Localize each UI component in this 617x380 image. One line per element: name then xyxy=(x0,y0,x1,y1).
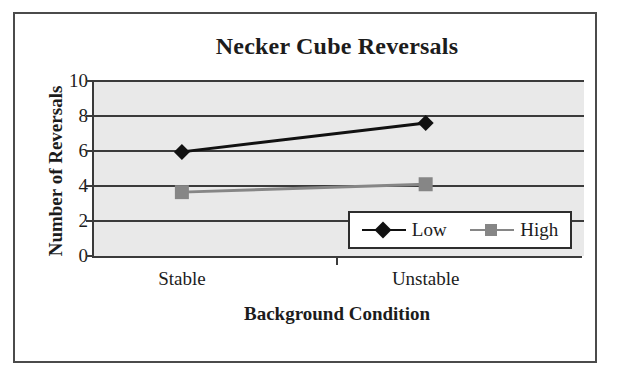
gridline xyxy=(94,115,584,117)
y-axis-tick-label: 4 xyxy=(54,176,88,195)
gridline xyxy=(94,150,584,152)
y-axis-tick-mark xyxy=(86,150,94,152)
y-axis-tick-mark xyxy=(86,185,94,187)
legend-entry-high: High xyxy=(470,219,558,241)
square-marker-icon xyxy=(470,223,514,237)
x-axis-center-tick xyxy=(336,256,338,265)
y-axis-tick-labels: 0246810 xyxy=(48,81,88,256)
y-axis-tick-label: 8 xyxy=(54,106,88,125)
diamond-marker-icon xyxy=(362,223,406,237)
gridline xyxy=(94,80,584,82)
y-axis-tick-mark xyxy=(86,255,94,257)
y-axis-tick-mark xyxy=(86,220,94,222)
y-axis-tick-mark xyxy=(86,80,94,82)
y-axis-tick-label: 0 xyxy=(54,246,88,265)
y-axis-tick-label: 6 xyxy=(54,141,88,160)
gridline xyxy=(94,185,584,187)
x-axis-tick-label: Unstable xyxy=(346,268,506,290)
x-axis-title: Background Condition xyxy=(92,303,582,325)
y-axis-tick-label: 2 xyxy=(54,211,88,230)
chart-legend: Low High xyxy=(348,211,572,249)
x-axis-tick-labels: StableUnstable xyxy=(92,268,582,296)
legend-label-low: Low xyxy=(412,219,447,241)
y-axis-tick-mark xyxy=(86,115,94,117)
chart-title: Necker Cube Reversals xyxy=(92,33,582,60)
y-axis-tick-label: 10 xyxy=(54,71,88,90)
x-axis-tick-label: Stable xyxy=(102,268,262,290)
legend-label-high: High xyxy=(520,219,558,241)
figure-canvas: Necker Cube Reversals Number of Reversal… xyxy=(0,0,617,380)
legend-entry-low: Low xyxy=(362,219,447,241)
